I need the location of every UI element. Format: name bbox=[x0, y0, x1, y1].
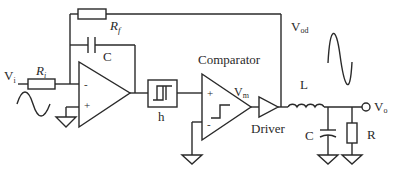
svg-text:h: h bbox=[158, 109, 165, 124]
input-label: Vi bbox=[4, 68, 16, 85]
ground-icon bbox=[182, 155, 202, 164]
driver-output-label: Vod bbox=[291, 19, 308, 35]
svg-text:R: R bbox=[367, 127, 376, 142]
input-resistor-label: Ri bbox=[35, 63, 46, 80]
ground-icon bbox=[318, 155, 338, 164]
svg-text:Driver: Driver bbox=[251, 121, 286, 136]
driver-buffer bbox=[259, 97, 278, 117]
feedback-resistor bbox=[78, 9, 106, 19]
svg-text:-: - bbox=[84, 78, 88, 90]
inductor bbox=[288, 104, 324, 107]
svg-text:+: + bbox=[207, 87, 213, 99]
integrator-cap-label: C bbox=[103, 49, 112, 64]
svg-text:-: - bbox=[207, 118, 211, 130]
output-sine-icon bbox=[328, 33, 352, 84]
svg-text:+: + bbox=[84, 99, 90, 111]
comparator-title: Comparator bbox=[198, 52, 261, 67]
comparator-output-label: Vm bbox=[234, 85, 250, 100]
integrator-opamp bbox=[79, 62, 130, 127]
ground-icon bbox=[342, 155, 362, 164]
svg-text:C: C bbox=[305, 128, 314, 143]
output-label: Vo bbox=[374, 99, 387, 115]
feedback-resistor-label: Rf bbox=[109, 18, 122, 35]
load-resistor bbox=[347, 123, 357, 143]
input-sine-icon bbox=[17, 92, 50, 116]
svg-text:L: L bbox=[300, 77, 308, 92]
ground-icon bbox=[56, 117, 76, 127]
input-resistor bbox=[28, 79, 55, 89]
circuit-diagram: Rf C Vi Ri - + h Comparator + - Vm Drive… bbox=[0, 0, 394, 174]
comparator bbox=[202, 74, 251, 140]
output-terminal bbox=[362, 103, 370, 111]
